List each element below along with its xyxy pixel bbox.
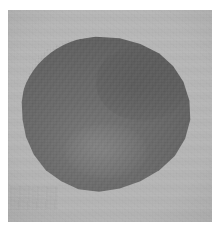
specimen-surface-texture (20, 36, 192, 194)
specimen-object (20, 36, 192, 194)
figure-root (0, 0, 223, 232)
handling-smudge-artifact (10, 186, 58, 210)
photographic-plate (8, 10, 212, 222)
specimen-upper-shading (96, 45, 189, 121)
specimen-highlight (65, 124, 148, 178)
